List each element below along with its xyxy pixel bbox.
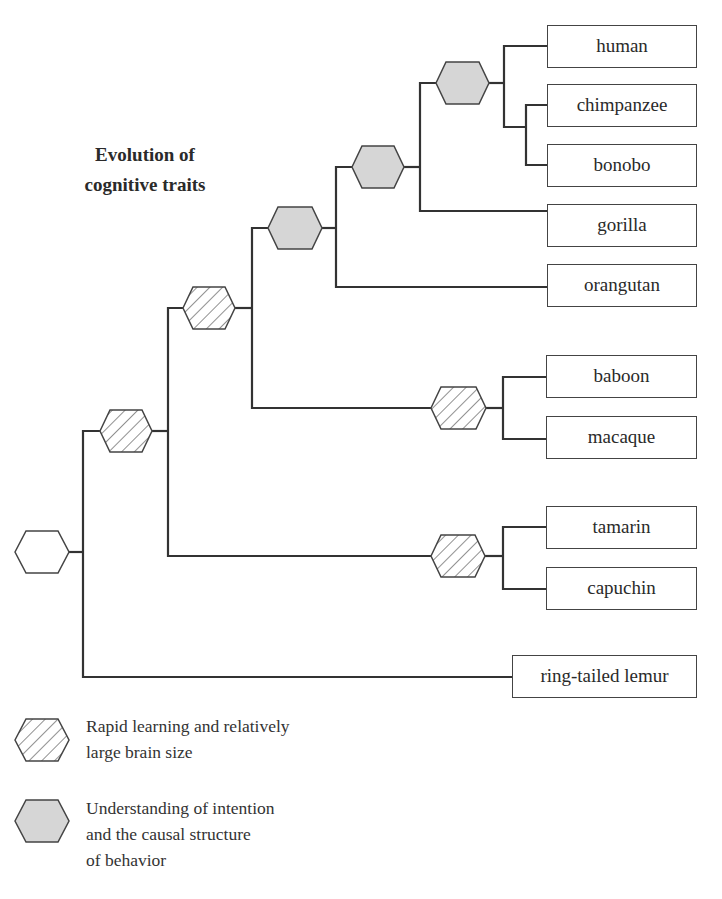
legend-hatched-line-1: Rapid learning and relatively (86, 713, 290, 739)
legend-gray-line-3: of behavior (86, 847, 275, 873)
taxon-tamarin: tamarin (546, 506, 697, 549)
legend-item-gray: Understanding of intention and the causa… (86, 795, 275, 873)
anthropoid-node-hatched-hexagon-icon (100, 410, 152, 452)
diagram-title: Evolution of cognitive traits (60, 140, 230, 200)
taxon-baboon: baboon (546, 355, 697, 398)
taxon-orangutan: orangutan (547, 264, 697, 307)
title-line-2: cognitive traits (60, 170, 230, 200)
taxon-human: human (547, 25, 697, 68)
catarrhine-node-hatched-hexagon-icon (183, 287, 235, 329)
legend-gray-line-1: Understanding of intention (86, 795, 275, 821)
african-ape-node-gray-hexagon-icon (352, 146, 404, 188)
great-ape-node-gray-hexagon-icon (268, 207, 322, 249)
human-chimp-node-gray-hexagon-icon (436, 62, 489, 104)
taxon-bonobo: bonobo (547, 144, 697, 187)
legend-gray-hexagon-icon (15, 800, 69, 842)
taxon-gorilla: gorilla (547, 204, 697, 247)
taxon-ring-tailed-lemur: ring-tailed lemur (512, 655, 697, 698)
legend-item-hatched: Rapid learning and relatively large brai… (86, 713, 290, 765)
legend-hatched-line-2: large brain size (86, 739, 290, 765)
root-node-empty-hexagon-icon (15, 531, 69, 573)
old-world-monkey-node-hatched-hexagon-icon (431, 387, 486, 429)
new-world-monkey-node-hatched-hexagon-icon (431, 535, 485, 577)
taxon-macaque: macaque (546, 416, 697, 459)
taxon-capuchin: capuchin (546, 567, 697, 610)
legend-hatched-hexagon-icon (15, 719, 69, 761)
taxon-chimpanzee: chimpanzee (547, 84, 697, 127)
legend-gray-line-2: and the causal structure (86, 821, 275, 847)
title-line-1: Evolution of (60, 140, 230, 170)
